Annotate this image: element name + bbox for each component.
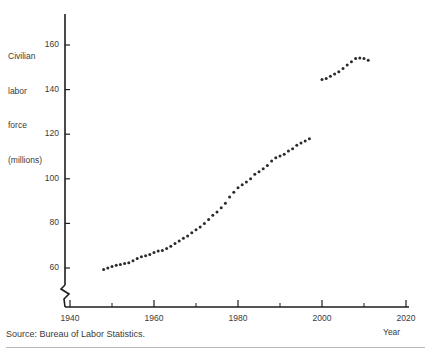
data-point [329,75,332,78]
data-point [224,202,227,205]
data-point [174,242,177,245]
data-point [325,77,328,80]
data-point [367,59,370,62]
y-tick-label: 60 [33,262,59,272]
data-point [308,137,311,140]
bottom-divider [6,347,425,348]
x-tick-label: 1980 [221,313,255,323]
data-point [127,261,130,264]
data-point [241,183,244,186]
data-point [211,214,214,217]
data-point [346,64,349,67]
data-point [363,57,366,60]
data-point [291,147,294,150]
data-point [182,237,185,240]
data-point [119,263,122,266]
data-point [350,60,353,63]
data-point [354,57,357,60]
data-point [245,180,248,183]
data-point [123,262,126,265]
y-tick-label: 160 [33,39,59,49]
data-point [333,72,336,75]
data-point [249,177,252,180]
data-point [161,249,164,252]
y-tick-label: 100 [33,173,59,183]
data-point [157,250,160,253]
data-point [270,159,273,162]
data-point [165,247,168,250]
data-point [283,153,286,156]
data-point [178,240,181,243]
data-point [207,218,210,221]
data-point [148,253,151,256]
data-point [237,186,240,189]
data-point [190,231,193,234]
data-point [287,149,290,152]
data-points [102,56,370,271]
data-point [111,265,114,268]
data-point [295,144,298,147]
data-point [321,78,324,81]
data-point [195,228,198,231]
data-point [274,156,277,159]
data-point [169,245,172,248]
x-tick-label: 2000 [305,313,339,323]
data-point [216,211,219,214]
data-point [203,222,206,225]
x-tick-label: 1960 [137,313,171,323]
data-point [199,225,202,228]
data-point [186,234,189,237]
data-point [153,251,156,254]
source-note: Source: Bureau of Labor Statistics. [6,329,145,339]
data-point [279,155,282,158]
data-point [115,264,118,267]
plot-area [0,0,431,352]
data-point [144,254,147,257]
data-point [262,167,265,170]
x-tick-label: 1940 [53,313,87,323]
data-point [136,257,139,260]
data-point [102,268,105,271]
y-tick-label: 120 [33,128,59,138]
chart-figure: Civilian labor force (millions) Year 160… [0,0,431,352]
data-point [106,267,109,270]
data-point [253,173,256,176]
y-tick-label: 80 [33,217,59,227]
data-point [266,164,269,167]
data-point [140,255,143,258]
data-point [337,70,340,73]
data-point [300,142,303,145]
data-point [220,206,223,209]
data-point [258,170,261,173]
data-point [304,139,307,142]
data-point [232,191,235,194]
data-point [342,67,345,70]
tick-marks [65,45,406,307]
data-point [132,259,135,262]
x-tick-label: 2020 [389,313,423,323]
y-tick-label: 140 [33,84,59,94]
data-point [358,56,361,59]
data-point [228,196,231,199]
